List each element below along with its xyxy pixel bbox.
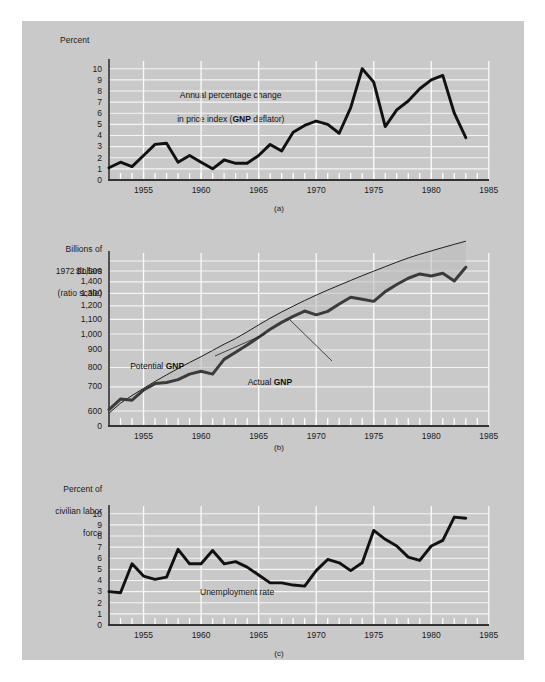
panel-b-caption: (b) — [259, 443, 299, 452]
panel-c-ytick-7: 7 — [74, 543, 102, 552]
panel-a-xtick-1960: 1960 — [181, 185, 221, 195]
panel-b-ytick-900: 900 — [50, 345, 102, 354]
panel-a-horizontal-gridlines — [109, 69, 489, 169]
panel-b-ytick-1200: 1,200 — [50, 301, 102, 310]
panel-c-xtick-1970: 1970 — [296, 630, 336, 640]
panel-a-caption: (a) — [259, 204, 299, 213]
panel-b-xtick-1955: 1955 — [124, 431, 164, 441]
panel-a-ytick-5: 5 — [74, 120, 102, 129]
panel-b-ytick-1000: 1,000 — [50, 330, 102, 339]
panel-c-xtick-1975: 1975 — [354, 630, 394, 640]
panel-c-xtick-1985: 1985 — [469, 630, 509, 640]
panel-c-horizontal-gridlines — [109, 514, 489, 614]
panel-c-ytick-0: 0 — [74, 621, 102, 630]
panel-c-annotation: Unemployment rate — [200, 586, 274, 598]
panel-c-xtick-1960: 1960 — [181, 630, 221, 640]
panel-a-ytick-2: 2 — [74, 154, 102, 163]
panel-c-annual-ticks — [121, 618, 478, 625]
panel-c-ytick-9: 9 — [74, 521, 102, 530]
panel-c-ytick-6: 6 — [74, 554, 102, 563]
panel-b-ytick-1300: 1,300 — [50, 289, 102, 298]
panel-b-annual-ticks — [121, 418, 478, 426]
panel-b-vertical-gridlines — [144, 253, 489, 426]
panel-b-xtick-1965: 1965 — [239, 431, 279, 441]
panel-b-label-actual-gnp: Actual GNP — [234, 364, 292, 400]
panel-a-xtick-1980: 1980 — [411, 185, 451, 195]
panel-b-xtick-1970: 1970 — [296, 431, 336, 441]
panel-b-ytick-1500: $1,500 — [50, 267, 102, 276]
panel-b-ytick-700: 700 — [50, 382, 102, 391]
panel-a-ytick-9: 9 — [74, 76, 102, 85]
panel-b-label-potential-bold: GNP — [166, 361, 184, 371]
panel-a-ytick-0: 0 — [74, 176, 102, 185]
panel-c-ytick-5: 5 — [74, 565, 102, 574]
panel-b-label-actual-pre: Actual — [248, 377, 274, 387]
panel-c-ytick-10: 10 — [74, 510, 102, 519]
panel-b-label-potential-gnp: Potential GNP — [116, 348, 184, 384]
panel-b-ytick-1400: 1,400 — [50, 277, 102, 286]
panel-c-ytick-8: 8 — [74, 532, 102, 541]
panel-a-ytick-6: 6 — [74, 109, 102, 118]
panel-c-ytick-4: 4 — [74, 576, 102, 585]
panel-b-ytick-0: 0 — [50, 422, 102, 431]
panel-b-label-potential-pre: Potential — [130, 361, 165, 371]
panel-b-actual-leader-line — [290, 320, 332, 361]
panel-b-label-actual-bold: GNP — [274, 377, 292, 387]
panel-a-series-inflation — [109, 69, 466, 169]
panel-c-ytick-3: 3 — [74, 587, 102, 596]
panel-a: Percent Annual percentage change in pric… — [22, 21, 524, 221]
panel-b-horizontal-gridlines — [109, 261, 489, 411]
panel-a-annual-ticks — [121, 173, 478, 180]
panel-a-ytick-1: 1 — [74, 165, 102, 174]
panel-c-series-unemployment — [109, 517, 466, 593]
panel-b-ytick-800: 800 — [50, 363, 102, 372]
panel-b-xtick-1985: 1985 — [469, 431, 509, 441]
panel-c-xtick-1955: 1955 — [124, 630, 164, 640]
figure-container: Percent Annual percentage change in pric… — [22, 21, 524, 660]
panel-a-ytick-4: 4 — [74, 131, 102, 140]
panel-b-xtick-1975: 1975 — [354, 431, 394, 441]
panel-c-vertical-gridlines — [144, 506, 489, 625]
panel-c-xtick-1965: 1965 — [239, 630, 279, 640]
panel-c-caption: (c) — [259, 649, 299, 658]
panel-a-xtick-1955: 1955 — [124, 185, 164, 195]
panel-a-ytick-10: 10 — [74, 65, 102, 74]
panel-b-ytick-1100: 1,100 — [50, 315, 102, 324]
panel-c-ytick-2: 2 — [74, 599, 102, 608]
panel-a-xtick-1985: 1985 — [469, 185, 509, 195]
panel-c-ytick-1: 1 — [74, 610, 102, 619]
panel-b-xtick-1960: 1960 — [181, 431, 221, 441]
panel-b-ytick-600: 600 — [50, 407, 102, 416]
panel-a-xtick-1975: 1975 — [354, 185, 394, 195]
panel-b: Billions of 1972 dollars (ratio scale) — [22, 221, 524, 446]
panel-b-xtick-1980: 1980 — [411, 431, 451, 441]
panel-a-ytick-7: 7 — [74, 98, 102, 107]
panel-a-xtick-1970: 1970 — [296, 185, 336, 195]
panel-a-ytick-8: 8 — [74, 87, 102, 96]
panel-a-xtick-1965: 1965 — [239, 185, 279, 195]
panel-c-xtick-1980: 1980 — [411, 630, 451, 640]
panel-c: Percent of civilian labor force — [22, 461, 524, 660]
panel-a-ytick-3: 3 — [74, 142, 102, 151]
